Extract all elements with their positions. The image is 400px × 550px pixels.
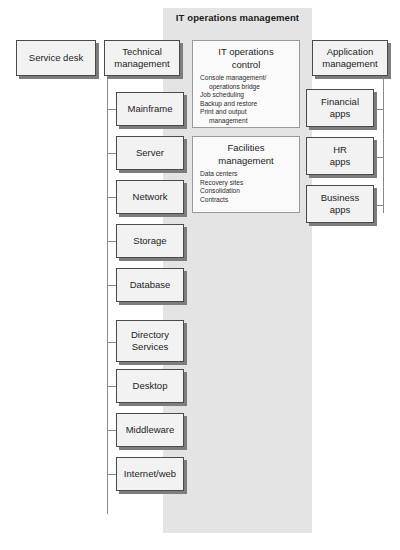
panel-item: Print and output [200,108,292,117]
band-title: IT operations management [163,12,312,23]
box-service-desk[interactable]: Service desk [16,40,96,76]
box-technical-management[interactable]: Technical management [104,40,180,76]
box-label: Business apps [321,192,360,217]
box-label: Server [136,147,164,160]
panel-title: IT operations control [200,46,292,71]
box-database[interactable]: Database [116,268,184,302]
box-label: Desktop [133,380,168,393]
box-storage[interactable]: Storage [116,224,184,258]
box-middleware[interactable]: Middleware [116,413,184,447]
it-operations-management-diagram: IT operations management Service desk Te… [0,0,400,550]
box-label: Database [130,279,171,292]
box-label: Network [133,191,168,204]
panel-item-list: Console management/ operations bridge Jo… [200,74,292,126]
application-stub-line [374,205,384,206]
application-trunk-line [383,76,384,213]
panel-item: Job scheduling [200,91,292,100]
box-hr-apps[interactable]: HR apps [306,137,374,175]
box-desktop[interactable]: Desktop [116,369,184,403]
panel-item: Contracts [200,196,292,205]
technical-trunk-line [107,76,108,514]
box-label: Storage [133,235,166,248]
panel-item: Consolidation [200,187,292,196]
box-business-apps[interactable]: Business apps [306,185,374,223]
panel-item: management [200,117,292,126]
box-mainframe[interactable]: Mainframe [116,92,184,126]
box-network[interactable]: Network [116,180,184,214]
panel-item: Recovery sites [200,179,292,188]
box-application-management[interactable]: Application management [312,40,388,76]
panel-facilities-management[interactable]: Facilities management Data centers Recov… [192,136,300,213]
box-label: Mainframe [128,103,173,116]
box-directory-services[interactable]: Directory Services [116,320,184,362]
panel-it-operations-control[interactable]: IT operations control Console management… [192,40,300,128]
box-label: HR apps [330,144,351,169]
box-label: Application management [322,46,377,71]
box-internet-web[interactable]: Internet/web [116,457,184,491]
box-label: Directory Services [131,329,169,354]
box-label: Middleware [126,424,175,437]
box-label: Technical management [114,46,169,71]
panel-item: Data centers [200,170,292,179]
box-financial-apps[interactable]: Financial apps [306,89,374,127]
box-label: Financial apps [321,96,359,121]
application-stub-line [374,109,384,110]
application-stub-line [374,157,384,158]
box-server[interactable]: Server [116,136,184,170]
panel-title: Facilities management [200,142,292,167]
panel-item: Console management/ [200,74,292,83]
panel-item: operations bridge [200,83,292,92]
panel-item: Backup and restore [200,100,292,109]
box-label: Service desk [29,52,83,65]
panel-item-list: Data centers Recovery sites Consolidatio… [200,170,292,204]
box-label: Internet/web [124,468,176,481]
